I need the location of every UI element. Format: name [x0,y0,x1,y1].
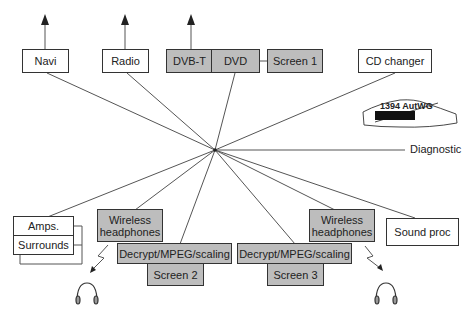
wire-navi [47,73,215,150]
wire-dec1 [180,150,215,244]
dvd-box: DVD [211,49,260,73]
wireless-signal-icon-2 [365,246,380,268]
arrowhead-dvbt [187,14,195,25]
screen2-box: Screen 2 [147,263,204,286]
hub-node [213,148,217,152]
logo-title: 1394 AutWG [380,101,433,111]
screen3-box: Screen 3 [267,263,324,286]
radio-box: Radio [102,49,149,73]
wire-dvd [215,73,235,150]
dvbt-box: DVB-T [166,49,213,73]
amps-box: Amps. [13,216,74,236]
cd-changer-box: CD changer [358,49,432,73]
screen1-box: Screen 1 [267,49,323,73]
wire-radio [127,73,215,150]
decrypt-box-1: Decrypt/MPEG/scaling [117,243,232,264]
wire-wh1 [135,150,215,210]
diagnostic-label: Diagnostic [410,143,461,155]
arrowhead-radio [121,14,129,25]
wireless-headphones-box-2: Wireless headphones [309,209,375,242]
wire-amps [45,150,215,218]
headphones-icon-1 [76,283,98,304]
connection-wires [0,0,475,316]
wireless-signal-icon-1 [92,245,108,270]
wire-cd [215,73,395,150]
sound-proc-box: Sound proc [386,218,459,246]
surrounds-box: Surrounds [13,235,74,255]
decrypt-box-2: Decrypt/MPEG/scaling [237,243,352,264]
wire-soundproc [215,150,415,218]
navi-box: Navi [22,49,69,73]
wire-wh2 [215,150,335,210]
arrowhead-navi [41,14,49,25]
headphones-icon-2 [375,283,397,304]
wireless-headphones-box-1: Wireless headphones [97,209,163,242]
